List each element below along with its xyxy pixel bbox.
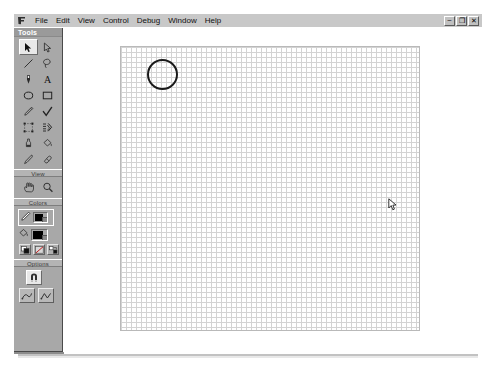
fill-color-dropdown-corner[interactable] bbox=[42, 235, 47, 240]
menu-view[interactable]: View bbox=[74, 15, 99, 26]
no-color-button[interactable] bbox=[33, 244, 45, 255]
stage-area[interactable] bbox=[63, 28, 482, 352]
window-bottom-divider bbox=[18, 354, 478, 358]
menu-help[interactable]: Help bbox=[201, 15, 225, 26]
view-section-label: View bbox=[14, 169, 62, 177]
restore-button[interactable]: ❐ bbox=[456, 16, 467, 26]
line-tool-icon[interactable] bbox=[19, 55, 38, 71]
fill-color-swatch[interactable] bbox=[31, 229, 48, 241]
colors-section-label: Colors bbox=[14, 198, 62, 206]
hand-tool-icon[interactable] bbox=[19, 179, 38, 195]
fill-color-row[interactable] bbox=[14, 228, 62, 241]
mouse-pointer-cursor bbox=[388, 198, 397, 211]
pen-tool-icon[interactable] bbox=[19, 71, 38, 87]
menu-edit[interactable]: Edit bbox=[52, 15, 74, 26]
tool-button-grid: A bbox=[14, 37, 62, 169]
brush-tool-icon[interactable] bbox=[38, 103, 57, 119]
options-row-secondary bbox=[14, 288, 62, 303]
paint-bucket-tool-icon[interactable] bbox=[38, 135, 57, 151]
paint-bucket-fill-icon bbox=[18, 228, 29, 241]
pencil-tool-icon[interactable] bbox=[19, 103, 38, 119]
fill-transform-tool-icon[interactable] bbox=[38, 119, 57, 135]
swap-colors-button[interactable] bbox=[47, 244, 59, 255]
view-tool-grid bbox=[14, 177, 62, 198]
oval-tool-icon[interactable] bbox=[19, 87, 38, 103]
straighten-button[interactable] bbox=[38, 288, 54, 303]
window-controls: – ❐ ✕ bbox=[444, 16, 479, 26]
close-button[interactable]: ✕ bbox=[468, 16, 479, 26]
text-tool-icon[interactable]: A bbox=[38, 71, 57, 87]
flash-app-icon bbox=[17, 16, 27, 25]
stroke-color-dropdown-corner[interactable] bbox=[42, 217, 47, 222]
stroke-color-swatch[interactable] bbox=[33, 212, 48, 223]
menu-control[interactable]: Control bbox=[99, 15, 133, 26]
black-and-white-button[interactable] bbox=[19, 244, 31, 255]
snap-to-objects-button[interactable] bbox=[26, 270, 42, 285]
tools-panel: Tools bbox=[14, 28, 63, 352]
canvas-document[interactable] bbox=[120, 46, 420, 331]
zoom-tool-icon[interactable] bbox=[38, 179, 57, 195]
minimize-button[interactable]: – bbox=[444, 16, 455, 26]
menu-bar: File Edit View Control Debug Window Help… bbox=[14, 14, 482, 27]
color-mini-buttons bbox=[14, 244, 62, 255]
smooth-button[interactable] bbox=[19, 288, 35, 303]
subselection-tool-icon[interactable] bbox=[38, 39, 57, 55]
stroke-color-row[interactable] bbox=[18, 209, 54, 226]
minimize-icon: – bbox=[445, 17, 454, 25]
lasso-tool-icon[interactable] bbox=[38, 55, 57, 71]
menu-debug[interactable]: Debug bbox=[133, 15, 165, 26]
svg-text:A: A bbox=[44, 74, 52, 85]
restore-icon: ❐ bbox=[457, 17, 466, 25]
rectangle-tool-icon[interactable] bbox=[38, 87, 57, 103]
options-row-primary bbox=[14, 270, 62, 285]
tools-panel-title: Tools bbox=[14, 28, 62, 37]
free-transform-tool-icon[interactable] bbox=[19, 119, 38, 135]
pencil-stroke-icon bbox=[20, 211, 31, 224]
menu-window[interactable]: Window bbox=[164, 15, 200, 26]
ink-bottle-tool-icon[interactable] bbox=[19, 135, 38, 151]
menu-file[interactable]: File bbox=[31, 15, 52, 26]
eraser-tool-icon[interactable] bbox=[38, 151, 57, 167]
application-window: File Edit View Control Debug Window Help… bbox=[0, 0, 496, 376]
eyedropper-tool-icon[interactable] bbox=[19, 151, 38, 167]
circle-shape[interactable] bbox=[147, 59, 178, 90]
arrow-tool-icon[interactable] bbox=[19, 39, 38, 55]
options-section-label: Options bbox=[14, 259, 62, 267]
close-icon: ✕ bbox=[469, 17, 478, 25]
